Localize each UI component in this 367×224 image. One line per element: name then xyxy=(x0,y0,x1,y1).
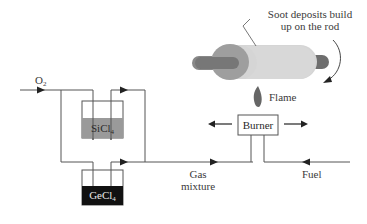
fuel-label: Fuel xyxy=(302,168,322,180)
rotation-arrow-icon xyxy=(328,40,340,80)
rotation-arrowhead-icon xyxy=(323,76,332,83)
gas-mixture-flow-arrow-2-icon xyxy=(210,159,218,166)
flame-icon xyxy=(254,86,262,107)
fuel-flow-arrow-icon xyxy=(302,159,310,166)
burner-label: Burner xyxy=(238,119,278,131)
burner-move-left-arrow-icon xyxy=(208,121,215,128)
gecl4-label: GeCl4 xyxy=(82,189,123,203)
gas-mixture-flow-arrow-icon xyxy=(120,159,128,166)
burner-move-right-arrow-icon xyxy=(301,121,308,128)
sicl4-label: SiCl4 xyxy=(82,122,123,136)
burner-feed-pipes xyxy=(251,135,350,162)
sicl4-flow-arrow-icon xyxy=(120,87,128,94)
soot-deposit-label: Soot deposits build up on the rod xyxy=(255,8,365,32)
gas-mixture-label: Gas mixture xyxy=(178,168,218,192)
flame-label: Flame xyxy=(269,91,297,103)
o2-label: O2 xyxy=(35,74,46,90)
